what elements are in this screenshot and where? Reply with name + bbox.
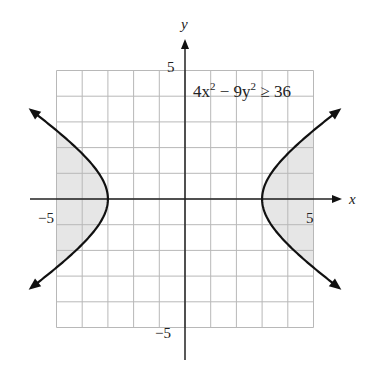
y-tick-5: 5 [167, 59, 175, 75]
x-tick-5: 5 [306, 210, 314, 226]
x-axis-label: x [348, 191, 356, 207]
inequality-annotation: 4x2 − 9y2 ≥ 36 [193, 80, 291, 101]
x-tick-neg5: −5 [38, 210, 54, 226]
y-axis-label: y [179, 16, 188, 32]
hyperbola-inequality-graph: x y −5 5 5 −5 4x2 − 9y2 ≥ 36 [0, 0, 368, 384]
axes [30, 39, 342, 360]
y-tick-neg5: −5 [155, 325, 171, 341]
